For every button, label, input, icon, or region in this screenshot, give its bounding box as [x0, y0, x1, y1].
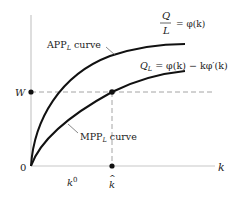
k0-label: k0 [67, 176, 78, 188]
khat-dot [109, 163, 114, 168]
app-eq-denominator: L [162, 25, 170, 36]
origin-label: 0 [20, 162, 26, 173]
app-curve-label: APPL curve [46, 39, 101, 52]
app-eq-numerator: Q [162, 10, 170, 21]
intersection-dot [109, 89, 115, 95]
wage-dot [28, 89, 33, 94]
mpp-curve [31, 71, 185, 166]
wage-label: W [15, 87, 26, 98]
x-axis-label: k [218, 161, 225, 174]
mpp-curve-label: MPPLcurve [80, 131, 137, 144]
production-diagram: 0 k W k0 k ^ APPL curve Q L = φ(k) QL = … [0, 0, 236, 198]
khat-accent: ^ [109, 173, 116, 182]
app-eq-rhs: = φ(k) [176, 19, 205, 29]
mpp-label-leader [68, 124, 78, 133]
app-label-leader [106, 47, 115, 55]
